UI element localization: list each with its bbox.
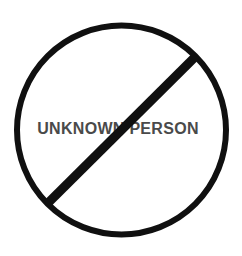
unknown-person-sign: UNKNOWN PERSON xyxy=(0,0,242,256)
prohibition-sign-graphic: UNKNOWN PERSON xyxy=(0,0,242,256)
